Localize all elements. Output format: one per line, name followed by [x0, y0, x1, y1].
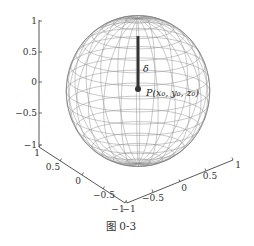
y-tick-label: −0.5	[142, 193, 164, 203]
x-axis: 10.50−0.5−1	[34, 145, 126, 215]
x-tick-label: 1	[34, 148, 40, 158]
sphere-figure: 10.50−0.5−1 10.50−0.5−1 −1−0.500.51 δ P(…	[0, 0, 254, 246]
x-tick-label: 0.5	[46, 162, 61, 172]
z-tick-label: 0	[31, 77, 37, 87]
x-tick-label: −0.5	[93, 190, 115, 200]
y-tick-label: 0.5	[203, 171, 218, 181]
figure-caption: 图 0-3	[106, 220, 136, 232]
z-tick-label: 1	[31, 16, 37, 26]
point-p-marker	[135, 86, 141, 92]
y-tick-label: 0	[181, 183, 187, 193]
z-tick-label: −0.5	[15, 108, 37, 118]
y-tick-label: −1	[122, 204, 135, 214]
z-tick-label: 0.5	[23, 47, 38, 57]
delta-label: δ	[143, 63, 149, 74]
point-label: P(x₀, y₀, z₀)	[145, 87, 199, 98]
z-axis: 10.50−0.5−1	[15, 16, 42, 150]
y-tick-label: 1	[235, 160, 241, 170]
x-tick-label: 0	[75, 176, 81, 186]
